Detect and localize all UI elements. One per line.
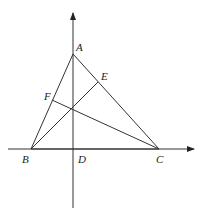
label-c: C [156, 153, 164, 165]
altitude-be [31, 82, 98, 149]
altitude-cf [52, 100, 159, 149]
segment-ab [31, 54, 73, 149]
label-a: A [75, 41, 83, 53]
label-e: E [100, 70, 108, 82]
label-b: B [22, 153, 29, 165]
geometry-diagram: A B C D E F [0, 0, 200, 220]
diagram-svg: A B C D E F [0, 0, 200, 220]
label-f: F [43, 90, 51, 102]
segment-ac [73, 54, 159, 149]
label-d: D [77, 153, 86, 165]
